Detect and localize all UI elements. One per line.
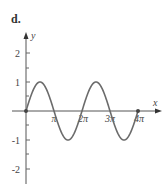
sine-chart: y x 2 1 -1 -2 π 2π 3π 4π [0,0,167,193]
x-axis-arrow-icon [155,109,162,114]
y-tick-neg1: -1 [12,135,20,146]
origin-point [24,109,28,113]
y-tick-neg2: -2 [12,164,20,175]
y-tick-2: 2 [15,48,20,59]
x-tick-labels: π 2π 3π 4π [51,113,145,124]
y-axis-label: y [30,30,36,41]
x-axis-label: x [152,97,158,108]
y-axis-arrow-icon [24,32,29,39]
y-tick-1: 1 [15,77,20,88]
end-point [136,109,140,113]
